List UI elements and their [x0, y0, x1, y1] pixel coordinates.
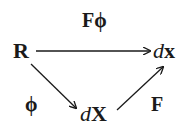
label-top-edge: Fϕ: [82, 10, 107, 30]
node-dx-var: x: [164, 38, 175, 63]
label-left-edge: ϕ: [25, 94, 37, 114]
node-dX-var: X: [91, 101, 107, 126]
label-right-edge: F: [151, 94, 163, 114]
node-dX-prefix: d: [80, 101, 91, 126]
node-R: R: [13, 41, 29, 61]
node-dx: dx: [153, 41, 175, 61]
node-dX: dX: [80, 104, 107, 124]
node-dx-prefix: d: [153, 38, 164, 63]
arrow-left: [31, 64, 76, 108]
